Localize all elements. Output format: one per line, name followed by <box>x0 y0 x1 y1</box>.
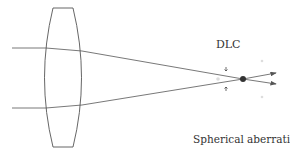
bottom-ray <box>12 79 243 108</box>
caption: Spherical aberration <box>193 133 290 145</box>
dlc-arrow-down-icon <box>225 67 228 71</box>
dlc-arrow-up-icon <box>225 87 228 91</box>
lens-shape <box>45 8 82 147</box>
faint-dot <box>216 77 220 81</box>
faint-dot <box>261 96 264 99</box>
top-ray-exit <box>243 79 276 84</box>
dlc-label: DLC <box>216 38 241 51</box>
faint-dot <box>261 60 264 63</box>
bottom-ray-exit <box>243 73 276 79</box>
focus-point <box>240 76 246 82</box>
top-ray <box>12 48 243 79</box>
diagram: DLC Spherical aberration <box>0 0 290 156</box>
